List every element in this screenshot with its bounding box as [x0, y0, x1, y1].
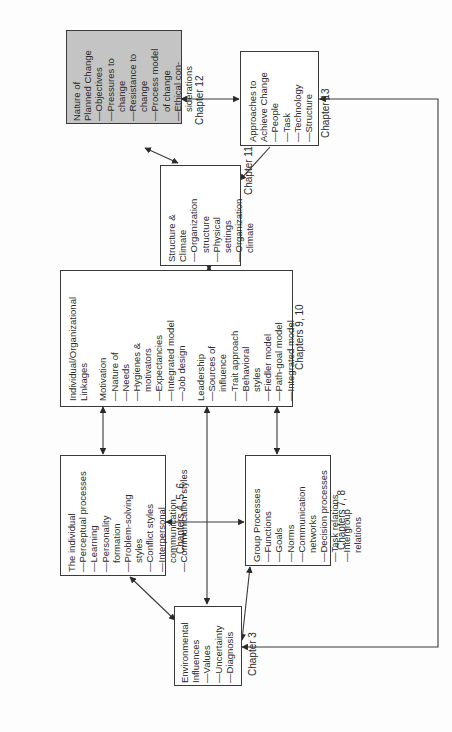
list-item: —Sources of	[206, 297, 217, 401]
box-title: Climate	[177, 199, 188, 262]
list-item: —Perceptual processes	[77, 470, 88, 572]
list-item: —Objectives	[93, 49, 104, 121]
arrow-individual-environmental	[130, 577, 175, 620]
list-item: motivators	[142, 297, 153, 401]
box-title: Environmental	[179, 622, 190, 683]
box-title: Structure &	[166, 199, 177, 262]
box-individual-organizational-linkages: Individual/Organizational Linkages Motiv…	[60, 270, 293, 407]
list-item: —Task	[281, 72, 292, 142]
box-title: Influences	[190, 622, 201, 683]
label-chapter-11: Chapter 11	[243, 146, 254, 195]
box-environmental-influences: Environmental Influences —Values —Uncert…	[174, 606, 242, 686]
list-item: —Personality	[100, 470, 111, 572]
list-item: styles	[251, 297, 262, 401]
list-item: —Resistance to	[127, 49, 138, 121]
list-item: —Technology	[292, 72, 303, 142]
label-chapter-3: Chapter 3	[247, 632, 258, 676]
list-item: —Pressures to	[105, 49, 116, 121]
list-item: change	[138, 49, 149, 121]
box-title: Linkages	[78, 297, 89, 401]
list-item: siderations	[183, 49, 194, 121]
box-title: Group Processes	[251, 470, 262, 562]
box-structure-and-climate: Structure & Climate —Organization struct…	[160, 165, 241, 266]
list-item: —Problem-solving	[122, 470, 133, 572]
box-title: Achieve Change	[258, 72, 269, 142]
box-title: Individual/Organizational	[67, 297, 78, 401]
box-the-individual: The individual —Perceptual processes —Le…	[60, 455, 166, 576]
list-item: —Conflict styles	[144, 470, 155, 572]
individual-text: The individual —Perceptual processes —Le…	[66, 470, 189, 572]
list-item: change	[116, 49, 127, 121]
list-item: —Structure	[303, 72, 314, 142]
list-item: networks	[307, 470, 318, 562]
label-chapters-9-10: Chapters 9, 10	[294, 304, 305, 370]
label-chapter-13: Chapter 13	[320, 89, 331, 138]
box-title: Nature of	[71, 49, 82, 121]
list-item: —Communication	[296, 470, 307, 562]
list-item: —Goals	[273, 470, 284, 562]
list-item: —People	[269, 72, 280, 142]
list-item: structure	[200, 199, 211, 262]
approaches-text: Approaches to Achieve Change —People —Ta…	[247, 72, 314, 142]
environmental-text: Environmental Influences —Values —Uncert…	[179, 622, 235, 683]
box-title: Approaches to	[247, 72, 258, 142]
list-item: —Values	[201, 622, 212, 683]
nature-text: Nature of Planned Change —Objectives —Pr…	[71, 49, 194, 121]
list-item: —Learning	[88, 470, 99, 572]
list-item: —Integrated model	[165, 297, 176, 401]
section-title-leadership: Leadership	[195, 297, 206, 401]
list-item: —Expectancies	[153, 297, 164, 401]
list-item: —Job design	[176, 297, 187, 401]
section-title-motivation: Motivation	[97, 297, 108, 401]
list-item: —Norms	[285, 470, 296, 562]
box-nature-of-planned-change: Nature of Planned Change —Objectives —Pr…	[66, 30, 182, 124]
list-item: —Process model	[149, 49, 160, 121]
list-item: —Ethical con-	[172, 49, 183, 121]
structure-text: Structure & Climate —Organization struct…	[166, 199, 256, 262]
list-item: —Behavioral	[240, 297, 251, 401]
list-item: of change	[161, 49, 172, 121]
list-item: —Hygienes &	[131, 297, 142, 401]
list-item: settings	[222, 199, 233, 262]
list-item: relations	[352, 470, 363, 562]
arrow-nature-structure	[145, 148, 178, 163]
list-item: —Diagnosis	[224, 622, 235, 683]
list-item: —Needs	[120, 297, 131, 401]
label-chapters-7-8: Chapters 7, 8	[336, 490, 347, 550]
arrow-group-environmental	[242, 567, 250, 640]
list-item: —Fiedler model	[262, 297, 273, 401]
list-item: —Trait approach	[229, 297, 240, 401]
linkages-text: Individual/Organizational Linkages Motiv…	[67, 297, 296, 401]
list-item: —Path-goal model	[273, 297, 284, 401]
list-item: —Organization	[233, 199, 244, 262]
list-item: formation	[111, 470, 122, 572]
list-item: —Uncertainty	[213, 622, 224, 683]
diagram-canvas: Nature of Planned Change —Objectives —Pr…	[0, 0, 452, 732]
box-group-processes: Group Processes —Functions —Goals —Norms…	[245, 455, 331, 566]
label-chapter-12: Chapter 12	[194, 76, 205, 125]
list-item: influence	[217, 297, 228, 401]
list-item: climate	[244, 199, 255, 262]
list-item: —Interpersonal	[156, 470, 167, 572]
box-approaches-to-achieve-change: Approaches to Achieve Change —People —Ta…	[240, 51, 319, 146]
list-item: —Physical	[211, 199, 222, 262]
box-title: The individual	[66, 470, 77, 572]
list-item: —Organization	[188, 199, 199, 262]
list-item: —Decision processes	[318, 470, 329, 562]
list-item: —Functions	[262, 470, 273, 562]
label-chapters-4-5-6: Chapters 4, 5, 6	[175, 483, 186, 554]
box-title: Planned Change	[82, 49, 93, 121]
list-item: styles	[133, 470, 144, 572]
list-item: —Nature of	[109, 297, 120, 401]
